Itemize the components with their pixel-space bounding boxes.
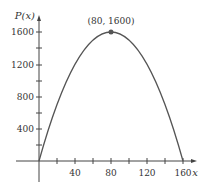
y-tick-label: 800 <box>17 92 34 102</box>
y-axis-label: P(x) <box>14 10 35 21</box>
x-axis-label: x <box>192 167 198 178</box>
vertex-point <box>109 30 114 35</box>
y-tick-label: 400 <box>17 124 34 134</box>
x-tick-label: 40 <box>69 168 81 178</box>
x-tick-label: 120 <box>138 168 155 178</box>
x-tick-label: 160 <box>174 168 191 178</box>
y-tick-label: 1600 <box>11 27 34 37</box>
curve-p-of-x <box>39 32 183 161</box>
y-tick-label: 1200 <box>11 60 34 70</box>
y-axis-arrow-icon <box>37 15 41 21</box>
x-tick-label: 80 <box>105 168 117 178</box>
chart: 40 80 120 160 400 800 1200 1600 P(x) x (… <box>0 0 207 191</box>
vertex-label: (80, 1600) <box>87 16 134 26</box>
x-axis-arrow-icon <box>191 159 197 163</box>
